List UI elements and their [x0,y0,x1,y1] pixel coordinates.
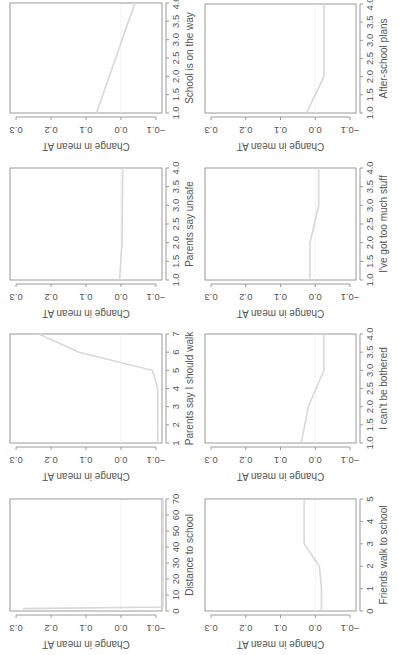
x-tick-label: 2 [364,564,375,569]
x-tick-label: 2.5 [364,382,375,395]
y-tick-label: −0.1 [147,455,166,466]
x-tick-label: 1.0 [170,273,181,286]
y-axis-title: Change in mean AT [237,471,325,482]
x-tick-label: 1.5 [364,418,375,431]
x-tick-label: 3 [364,541,375,546]
x-tick-label: 6 [170,350,181,355]
y-tick-label: 0.1 [79,292,92,303]
chart-panel-5: 1.01.52.02.53.03.54.0After-school plans−… [203,0,398,157]
y-tick-label: −0.1 [341,292,360,303]
x-tick-label: 2.0 [170,236,181,249]
y-tick-label: −0.1 [147,125,166,136]
x-axis: 1.01.52.02.53.03.54.0Parents say unsafe [166,162,195,287]
x-tick-label: 1 [170,440,181,445]
x-axis: 1.01.52.02.53.03.54.0School is on the wa… [166,0,195,120]
y-tick-label: 0.2 [44,292,57,303]
x-axis-title: I can't be bothered [378,347,389,430]
x-tick-label: 4.0 [364,0,375,11]
x-tick-label: 2.5 [364,52,375,65]
x-tick-label: 2.5 [364,217,375,230]
y-tick-label: 0.1 [274,623,287,634]
x-tick-label: 2 [170,422,181,427]
partial-dependence-line [39,334,158,443]
x-axis-title: After-school plans [378,18,389,98]
plot-frame [205,168,356,280]
x-tick-label: 3.0 [170,33,181,46]
y-axis-title: Change in mean AT [42,471,130,482]
x-tick-label: 5 [170,368,181,373]
x-tick-label: 3.5 [170,15,181,28]
y-axis: −0.10.00.10.20.3Change in mean AT [9,117,165,152]
x-axis-title: Friends walk to school [378,506,389,605]
y-tick-label: 0.1 [79,455,92,466]
chart-panel-1: 1.01.52.02.53.03.54.0School is on the wa… [8,0,206,157]
x-tick-label: 1.0 [364,273,375,286]
x-tick-label: 2.0 [364,236,375,249]
y-tick-label: −0.1 [147,292,166,303]
y-tick-label: 0.2 [239,455,252,466]
plot-frame [205,334,356,443]
y-tick-label: 0.1 [274,125,287,136]
y-axis: −0.10.00.10.20.3Change in mean AT [9,447,165,482]
y-axis: −0.10.00.10.20.3Change in mean AT [9,615,165,650]
x-tick-label: 40 [170,542,181,553]
x-tick-label: 7 [170,331,181,336]
x-tick-label: 3.0 [170,199,181,212]
y-tick-label: −0.1 [341,623,360,634]
y-axis-title: Change in mean AT [42,308,130,319]
y-axis: −0.10.00.10.20.3Change in mean AT [204,615,359,650]
x-tick-label: 2.5 [170,217,181,230]
x-axis: 1.01.52.02.53.03.54.0After-school plans [360,0,389,120]
x-tick-label: 4.0 [364,162,375,175]
y-axis-title: Change in mean AT [237,308,325,319]
y-tick-label: 0.0 [309,125,322,136]
plot-frame [10,334,162,443]
y-axis-title: Change in mean AT [42,141,130,152]
y-tick-label: 0.3 [204,292,217,303]
x-axis: 010203040506070Distance to school [166,494,195,614]
y-tick-label: 0.0 [114,455,127,466]
y-tick-label: 0.3 [204,623,217,634]
partial-dependence-line [310,168,319,280]
y-tick-label: 0.2 [44,623,57,634]
y-tick-label: 0.3 [9,623,22,634]
y-tick-label: 0.1 [79,623,92,634]
x-axis-title: School is on the way [184,12,195,104]
x-tick-label: 1.5 [364,88,375,101]
x-axis: 1.01.52.02.53.03.54.0I can't be bothered [360,328,389,450]
y-tick-label: 0.3 [204,125,217,136]
x-tick-label: 5 [364,496,375,501]
plot-frame [205,4,356,113]
y-tick-label: 0.3 [9,292,22,303]
x-tick-label: 4 [364,519,375,524]
x-tick-label: 3.5 [364,346,375,359]
partial-dependence-line [23,497,163,608]
y-tick-label: 0.2 [239,292,252,303]
y-tick-label: 0.3 [9,455,22,466]
plot-frame [10,499,162,611]
x-tick-label: 4.0 [170,162,181,175]
plot-frame [205,499,356,611]
x-tick-label: 2.0 [170,70,181,83]
chart-panel-2: 1.01.52.02.53.03.54.0Parents say unsafe−… [8,162,206,324]
x-tick-label: 2.5 [170,51,181,64]
x-axis-title: Distance to school [184,514,195,596]
plot-frame [10,3,162,113]
partial-dependence-line [304,499,321,611]
chart-panel-6: 1.01.52.02.53.03.54.0I've got too much s… [203,162,398,324]
y-tick-label: 0.2 [44,125,57,136]
x-axis: 1.01.52.02.53.03.54.0I've got too much s… [360,162,389,287]
y-tick-label: 0.3 [204,455,217,466]
x-axis-title: Parents say I should walk [184,331,195,445]
partial-dependence-line [97,3,135,113]
y-tick-label: 0.1 [274,455,287,466]
y-tick-label: 0.0 [309,292,322,303]
y-tick-label: 0.2 [239,623,252,634]
x-tick-label: 0 [364,608,375,613]
y-tick-label: 0.0 [309,455,322,466]
x-axis: 012345Friends walk to school [360,496,389,613]
x-tick-label: 4.0 [170,0,181,10]
x-tick-label: 3 [170,404,181,409]
x-tick-label: 3.5 [364,180,375,193]
y-tick-label: 0.0 [114,292,127,303]
